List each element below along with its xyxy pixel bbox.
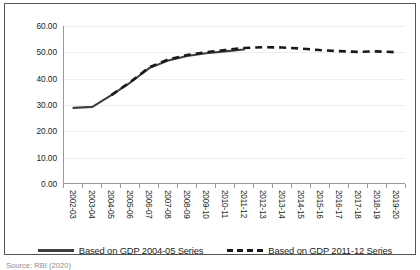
- legend-item-gdp-2004-05: Based on GDP 2004-05 Series: [38, 245, 204, 256]
- x-axis-tick-mark: [291, 184, 292, 188]
- x-axis-tick-mark: [272, 184, 273, 188]
- x-axis-tick-label: 2012-13: [258, 190, 266, 219]
- x-axis-tick-label: 2002-03: [68, 190, 76, 219]
- line-series-gdp-2011-12: [111, 47, 395, 95]
- line-series-gdp-2004-05: [73, 50, 244, 108]
- y-axis-tick-label: 40.00: [5, 75, 57, 83]
- x-axis-tick-label: 2007-08: [163, 190, 171, 219]
- x-axis-tick-mark: [82, 184, 83, 188]
- x-axis-tick-mark: [177, 184, 178, 188]
- x-axis-tick-label: 2003-04: [87, 190, 95, 219]
- x-axis-tick-mark: [310, 184, 311, 188]
- x-axis-tick-label: 2011-12: [239, 190, 247, 218]
- legend-item-gdp-2011-12: Based on GDP 2011-12 Series: [227, 245, 392, 256]
- y-axis-tick-label: 10.00: [5, 154, 57, 162]
- x-axis-tick-label: 2019-20: [391, 190, 399, 219]
- x-axis-tick-mark: [196, 184, 197, 188]
- x-axis-tick-mark: [63, 184, 64, 188]
- chart-legend: Based on GDP 2004-05 Series Based on GDP…: [10, 242, 420, 258]
- x-axis-tick-label: 2016-17: [334, 190, 342, 219]
- x-axis-tick-mark: [253, 184, 254, 188]
- y-axis-tick-label: 30.00: [5, 101, 57, 109]
- source-note: Source: RBI (2020): [6, 261, 71, 270]
- x-axis-tick-label: 2017-18: [353, 190, 361, 219]
- x-axis-tick-mark: [367, 184, 368, 188]
- x-axis-tick-mark: [234, 184, 235, 188]
- legend-swatch-dashed-icon: [227, 249, 263, 252]
- x-axis-tick-label: 2015-16: [315, 190, 323, 219]
- x-axis-tick-mark: [139, 184, 140, 188]
- x-axis-tick-mark: [348, 184, 349, 188]
- legend-label-gdp-2004-05: Based on GDP 2004-05 Series: [79, 245, 204, 256]
- y-axis-tick-label: 50.00: [5, 48, 57, 56]
- chart-frame: 0.0010.0020.0030.0040.0050.0060.00 2002-…: [4, 3, 416, 255]
- plot-area: [63, 26, 405, 184]
- x-axis-tick-mark: [386, 184, 387, 188]
- x-axis-tick-label: 2018-19: [372, 190, 380, 219]
- legend-label-gdp-2011-12: Based on GDP 2011-12 Series: [268, 245, 392, 256]
- x-axis-tick-label: 2013-14: [277, 190, 285, 219]
- x-axis-tick-label: 2006-07: [144, 190, 152, 219]
- x-axis-tick-label: 2008-09: [182, 190, 190, 219]
- y-axis-tick-label: 20.00: [5, 127, 57, 135]
- y-axis-tick-label: 60.00: [5, 22, 57, 30]
- x-axis-tick-mark: [101, 184, 102, 188]
- x-axis-tick-mark: [158, 184, 159, 188]
- x-axis-tick-mark: [329, 184, 330, 188]
- x-axis-tick-label: 2009-10: [201, 190, 209, 219]
- x-axis-tick-mark: [215, 184, 216, 188]
- x-axis-tick-mark: [120, 184, 121, 188]
- x-axis-tick-mark: [405, 184, 406, 188]
- y-axis-tick-label: 0.00: [5, 180, 57, 188]
- x-axis-tick-label: 2010-11: [220, 190, 228, 218]
- x-axis-tick-label: 2004-05: [106, 190, 114, 219]
- legend-swatch-solid-icon: [38, 249, 74, 252]
- series-lines: [64, 26, 405, 183]
- x-axis-tick-label: 2005-06: [125, 190, 133, 219]
- x-axis-tick-label: 2014-15: [296, 190, 304, 219]
